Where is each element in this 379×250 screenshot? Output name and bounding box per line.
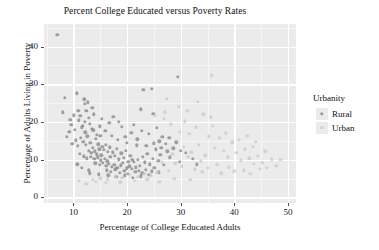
page-title: Percent College Educated versus Poverty …: [0, 6, 310, 16]
data-point: [168, 136, 171, 139]
data-point: [120, 125, 123, 128]
data-point: [92, 129, 95, 132]
data-point: [92, 113, 95, 116]
data-point: [80, 166, 83, 169]
data-point: [265, 166, 268, 169]
data-point: [126, 160, 129, 163]
data-point: [185, 109, 188, 112]
data-point: [170, 153, 173, 156]
data-point: [136, 158, 139, 161]
data-point: [169, 123, 172, 126]
data-point: [172, 147, 175, 150]
data-point: [194, 126, 197, 129]
data-point: [91, 106, 94, 109]
data-point: [79, 114, 82, 117]
data-point: [111, 115, 114, 118]
x-tick-label: 40: [219, 207, 249, 217]
y-tick-mark: [41, 47, 44, 48]
legend-key-swatch: [316, 122, 328, 134]
gridline-minor-horizontal: [44, 65, 296, 66]
gridline-major-horizontal: [44, 160, 296, 161]
data-point: [158, 139, 161, 142]
data-point: [158, 180, 161, 183]
x-tick-mark: [288, 203, 289, 206]
data-point: [118, 181, 121, 184]
x-tick-label: 30: [166, 207, 196, 217]
data-point: [106, 150, 109, 153]
data-point: [140, 129, 143, 132]
data-point: [99, 176, 102, 179]
data-point: [77, 179, 80, 182]
legend-item-label: Urban: [332, 123, 355, 133]
data-point: [173, 177, 176, 180]
data-point: [121, 161, 124, 164]
scatter-plot-figure: Percent College Educated versus Poverty …: [0, 0, 379, 250]
legend-item-urban[interactable]: Urban: [316, 121, 379, 135]
data-point: [133, 179, 136, 182]
data-point: [143, 161, 146, 164]
legend-title: Urbanity: [313, 93, 379, 103]
data-point: [85, 182, 88, 185]
data-point: [103, 129, 106, 132]
data-point: [175, 141, 178, 144]
gridline-minor-horizontal: [44, 103, 296, 104]
data-point: [146, 178, 149, 181]
data-point: [254, 140, 257, 143]
data-point: [200, 170, 203, 173]
data-point: [73, 128, 76, 131]
data-point: [202, 113, 205, 116]
data-point: [106, 178, 109, 181]
x-axis-label: Percentage of College Educated Adults: [44, 222, 296, 232]
data-point: [235, 151, 238, 154]
data-point: [84, 130, 87, 133]
data-point: [115, 147, 118, 150]
y-tick-mark: [41, 84, 44, 85]
data-point: [249, 172, 252, 175]
data-point: [224, 132, 227, 135]
data-point: [182, 145, 185, 148]
legend-key-swatch: [316, 108, 328, 120]
data-point: [65, 135, 68, 138]
data-point: [118, 171, 121, 174]
data-point: [76, 162, 79, 165]
data-point: [132, 123, 135, 126]
x-tick-mark: [127, 203, 128, 206]
gridline-minor-horizontal: [44, 28, 296, 29]
data-point: [88, 141, 91, 144]
y-tick-mark: [41, 160, 44, 161]
data-point: [252, 162, 255, 165]
data-point: [67, 130, 70, 133]
data-point: [72, 113, 75, 116]
data-point: [161, 135, 164, 138]
data-point: [213, 146, 216, 149]
legend-item-rural[interactable]: Rural: [316, 107, 379, 121]
data-point: [129, 154, 132, 157]
data-point: [85, 109, 88, 112]
data-point: [162, 117, 165, 120]
data-point: [153, 114, 156, 117]
data-point: [146, 152, 149, 155]
data-point: [143, 172, 146, 175]
data-point: [210, 74, 213, 77]
data-point: [110, 134, 113, 137]
data-point: [148, 162, 151, 165]
data-point: [81, 124, 84, 127]
data-point: [211, 124, 214, 127]
data-point: [56, 33, 59, 36]
data-point: [226, 156, 229, 159]
x-tick-mark: [234, 203, 235, 206]
data-point: [242, 169, 245, 172]
data-point: [74, 139, 77, 142]
data-point: [154, 148, 157, 151]
data-point: [132, 160, 135, 163]
data-point: [141, 88, 144, 91]
data-point: [139, 107, 142, 110]
data-point: [199, 159, 202, 162]
data-point: [108, 146, 111, 149]
data-point: [88, 122, 91, 125]
data-point: [222, 149, 225, 152]
data-point: [174, 162, 177, 165]
data-point: [160, 146, 163, 149]
data-point: [261, 161, 264, 164]
gridline-major-horizontal: [44, 47, 296, 48]
